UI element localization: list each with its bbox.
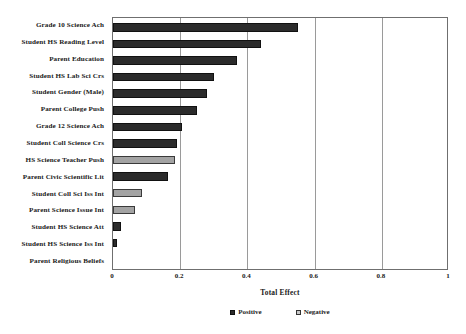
bar [113,172,168,181]
bar [113,189,142,198]
bar-row [113,251,447,268]
x-axis-title: Total Effect [112,288,448,297]
bar-row [113,102,447,119]
x-tick-label: 0.6 [309,272,318,280]
bar-row [113,119,447,136]
category-label: Student Gender (Male) [0,84,108,101]
bar [113,40,261,49]
x-tick-label: 0.4 [242,272,251,280]
x-tick-label: 0.8 [376,272,385,280]
bar [113,56,237,65]
category-label: Parent Religious Beliefs [0,253,108,270]
bar-row [113,235,447,252]
bar [113,222,121,231]
category-label: Student HS Science Att [0,219,108,236]
bar [113,73,214,82]
bar-row [113,85,447,102]
legend-item-positive: Positive [230,308,261,316]
bar-series [113,18,447,269]
category-label: Parent Education [0,51,108,68]
bar [113,206,135,215]
bar-row [113,168,447,185]
bar [113,106,197,115]
x-tick-label: 1 [446,272,450,280]
chart-legend: Positive Negative [112,308,448,316]
bar [113,89,207,98]
bar-row [113,69,447,86]
bar-row [113,36,447,53]
category-axis-labels: Grade 10 Science Ach Student HS Reading … [0,17,108,270]
legend-swatch-negative-icon [296,310,301,315]
legend-swatch-positive-icon [230,310,235,315]
bar [113,123,182,132]
bar-chart: Grade 10 Science Ach Student HS Reading … [0,0,466,334]
legend-item-negative: Negative [296,308,330,316]
category-label: Student Coll Sci Iss Int [0,186,108,203]
x-axis-ticks: 00.20.40.60.81 [112,272,448,284]
x-tick-label: 0.2 [175,272,184,280]
bar [113,139,177,148]
category-label: Student HS Science Iss Int [0,236,108,253]
category-label: Student HS Lab Sci Crs [0,68,108,85]
category-label: Grade 10 Science Ach [0,17,108,34]
category-label: Parent Science Issue Int [0,202,108,219]
bar-row [113,202,447,219]
legend-label-positive: Positive [238,308,261,316]
x-tick-label: 0 [110,272,114,280]
legend-label-negative: Negative [304,308,330,316]
bar-row [113,52,447,69]
bar-row [113,185,447,202]
bar [113,239,117,248]
bar-row [113,19,447,36]
category-label: Grade 12 Science Ach [0,118,108,135]
category-label: Student HS Reading Level [0,34,108,51]
category-label: Parent Civic Scientific Lit [0,169,108,186]
bar-row [113,135,447,152]
plot-area [112,17,448,270]
bar-row [113,152,447,169]
bar [113,23,298,32]
bar-row [113,218,447,235]
category-label: Parent College Push [0,101,108,118]
category-label: HS Science Teacher Push [0,152,108,169]
bar [113,156,175,165]
category-label: Student Coll Science Crs [0,135,108,152]
